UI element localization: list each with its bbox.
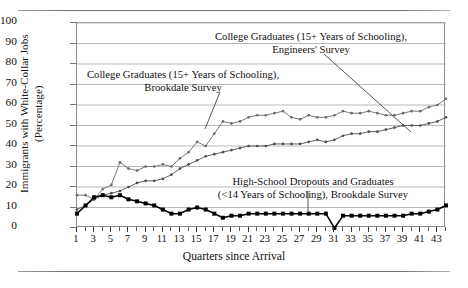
y-axis-tick-mark bbox=[70, 84, 76, 85]
annotation-highschool: High-School Dropouts and Graduates (<14 … bbox=[199, 175, 427, 202]
figure-top-rule bbox=[18, 10, 450, 11]
y-axis-tick-label: 100 bbox=[0, 14, 17, 26]
y-axis-tick-mark bbox=[70, 22, 76, 23]
x-axis-tick-mark bbox=[102, 227, 103, 231]
y-axis-tick-label: 80 bbox=[0, 55, 17, 67]
x-axis-tick-mark bbox=[76, 227, 77, 232]
x-axis-tick-mark bbox=[316, 227, 317, 232]
x-axis-tick-mark bbox=[436, 227, 437, 232]
x-axis-tick-mark bbox=[127, 227, 128, 232]
x-axis-tick-mark bbox=[248, 227, 249, 232]
y-axis-tick-mark bbox=[70, 186, 76, 187]
x-axis-tick-mark bbox=[222, 227, 223, 231]
leader-line-brookdale-college bbox=[205, 92, 220, 129]
x-axis-tick-mark bbox=[325, 227, 326, 231]
x-axis-tick-mark bbox=[239, 227, 240, 231]
x-axis-tick-mark bbox=[196, 227, 197, 232]
y-axis-tick-label: 30 bbox=[0, 158, 17, 170]
x-axis-tick-mark bbox=[256, 227, 257, 231]
y-axis-tick-label: 70 bbox=[0, 76, 17, 88]
x-axis-tick-mark bbox=[153, 227, 154, 231]
x-axis-tick-mark bbox=[145, 227, 146, 232]
y-axis-tick-mark bbox=[70, 207, 76, 208]
x-axis-tick-mark bbox=[394, 227, 395, 231]
x-axis-tick-mark bbox=[428, 227, 429, 231]
y-axis-tick-mark bbox=[70, 125, 76, 126]
x-axis-tick-mark bbox=[299, 227, 300, 232]
y-axis-tick-mark bbox=[70, 63, 76, 64]
x-axis-tick-mark bbox=[342, 227, 343, 231]
x-axis-tick-mark bbox=[351, 227, 352, 232]
x-axis-tick-mark bbox=[188, 227, 189, 231]
x-axis-tick-mark bbox=[385, 227, 386, 232]
leader-line-engineers bbox=[324, 54, 411, 132]
x-axis-tick-mark bbox=[205, 227, 206, 231]
x-axis-tick-mark bbox=[368, 227, 369, 232]
x-axis-tick-mark bbox=[419, 227, 420, 232]
x-axis-tick-mark bbox=[162, 227, 163, 232]
y-axis-tick-mark bbox=[70, 166, 76, 167]
x-axis-tick-label: 43 bbox=[426, 233, 446, 244]
x-axis-tick-mark bbox=[333, 227, 334, 232]
x-axis-tick-mark bbox=[93, 227, 94, 232]
y-axis-tick-label: 90 bbox=[0, 35, 17, 47]
x-axis-tick-mark bbox=[411, 227, 412, 231]
y-axis-tick-label: 60 bbox=[0, 96, 17, 108]
figure-container: Immigrants with White-Collar Jobs (Perce… bbox=[0, 0, 468, 288]
x-axis-title: Quarters since Arrival bbox=[0, 250, 468, 263]
x-axis-tick-mark bbox=[136, 227, 137, 231]
x-axis-tick-mark bbox=[170, 227, 171, 231]
figure-bottom-rule bbox=[18, 271, 450, 272]
y-axis-tick-mark bbox=[70, 104, 76, 105]
x-axis-tick-mark bbox=[291, 227, 292, 231]
y-axis-tick-label: 40 bbox=[0, 137, 17, 149]
y-axis-tick-mark bbox=[70, 145, 76, 146]
x-axis-tick-mark bbox=[359, 227, 360, 231]
x-axis-tick-mark bbox=[402, 227, 403, 232]
x-axis-tick-mark bbox=[265, 227, 266, 232]
x-axis-tick-mark bbox=[213, 227, 214, 232]
x-axis-tick-mark bbox=[230, 227, 231, 232]
annotation-brookdale-college: College Graduates (15+ Years of Schoolin… bbox=[85, 68, 281, 95]
x-axis-tick-mark bbox=[85, 227, 86, 231]
y-axis-tick-label: 0 bbox=[0, 219, 17, 231]
y-axis-tick-mark bbox=[70, 43, 76, 44]
y-axis-title: Immigrants with White-Collar Jobs (Perce… bbox=[18, 14, 45, 214]
annotation-engineers-survey: College Graduates (15+ Years of Schoolin… bbox=[196, 30, 426, 57]
x-axis-tick-mark bbox=[179, 227, 180, 232]
y-axis-tick-label: 10 bbox=[0, 199, 17, 211]
x-axis-tick-mark bbox=[282, 227, 283, 232]
x-axis-tick-mark bbox=[376, 227, 377, 231]
x-axis-tick-mark bbox=[308, 227, 309, 231]
x-axis-tick-mark bbox=[273, 227, 274, 231]
y-axis-tick-label: 20 bbox=[0, 178, 17, 190]
x-axis-tick-mark bbox=[119, 227, 120, 231]
x-axis-tick-mark bbox=[110, 227, 111, 232]
y-axis-tick-label: 50 bbox=[0, 117, 17, 129]
x-axis-tick-mark bbox=[445, 227, 446, 231]
